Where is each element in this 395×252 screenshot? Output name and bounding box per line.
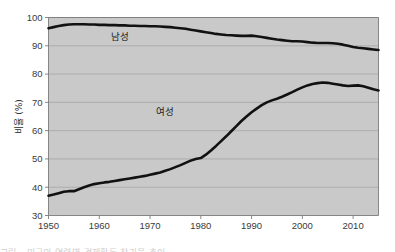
y-tick-label-100: 100 <box>27 12 43 23</box>
figure-caption: 그림 . 미국의 연령별 경제활동 참가율 추이 <box>0 246 395 252</box>
y-tick-label-40: 40 <box>32 182 43 193</box>
y-tick-label-60: 60 <box>32 125 43 136</box>
plot-area-background <box>49 18 379 216</box>
x-tick-label-1950: 1950 <box>38 220 59 231</box>
series-label-2: 여성 <box>156 106 174 117</box>
y-tick-label-90: 90 <box>32 40 43 51</box>
series-label-1: 남성 <box>111 31 129 42</box>
x-tick-label-1970: 1970 <box>139 220 160 231</box>
figure-container: 3040506070809010019501960197019801990200… <box>0 0 395 252</box>
y-axis-title: 비율 (%) <box>14 99 24 133</box>
line-chart: 3040506070809010019501960197019801990200… <box>0 0 395 252</box>
x-tick-label-1960: 1960 <box>89 220 110 231</box>
x-tick-label-2000: 2000 <box>292 220 313 231</box>
x-tick-label-1990: 1990 <box>241 220 262 231</box>
y-tick-label-70: 70 <box>32 97 43 108</box>
x-tick-label-2010: 2010 <box>343 220 364 231</box>
x-tick-label-1980: 1980 <box>190 220 211 231</box>
y-tick-label-50: 50 <box>32 153 43 164</box>
y-tick-label-80: 80 <box>32 68 43 79</box>
